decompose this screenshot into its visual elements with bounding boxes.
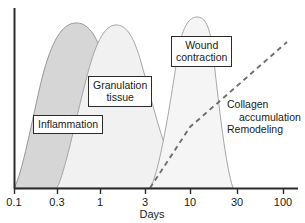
x-tick-label-0: 0.1 <box>6 196 21 208</box>
annotation-granulation-line-2: tissue <box>93 91 147 103</box>
x-tick-label-5: 30 <box>231 196 243 208</box>
annotation-collagen-line-2: accumulation <box>227 111 301 124</box>
x-tick-label-6: 100 <box>274 196 292 208</box>
annotation-wound-line-1: Wound <box>176 39 227 51</box>
x-axis-title: Days <box>139 208 164 220</box>
annotation-inflammation: Inflammation <box>33 115 103 134</box>
annotation-granulation-tissue: Granulation tissue <box>88 76 152 107</box>
annotation-granulation-line-1: Granulation <box>93 79 147 91</box>
x-tick-label-3: 3 <box>142 196 148 208</box>
annotation-collagen-remodeling: Collagen accumulation Remodeling <box>227 98 301 136</box>
annotation-collagen-line-1: Collagen <box>227 98 301 111</box>
annotation-wound-line-2: contraction <box>176 51 227 63</box>
annotation-inflammation-text: Inflammation <box>38 118 98 130</box>
wound-healing-chart: Inflammation Granulation tissue Wound co… <box>0 0 305 223</box>
annotation-collagen-line-3: Remodeling <box>227 123 301 136</box>
x-tick-label-2: 1 <box>97 196 103 208</box>
x-tick-label-4: 10 <box>184 196 196 208</box>
annotation-wound-contraction: Wound contraction <box>171 36 232 67</box>
x-tick-label-1: 0.3 <box>49 196 64 208</box>
